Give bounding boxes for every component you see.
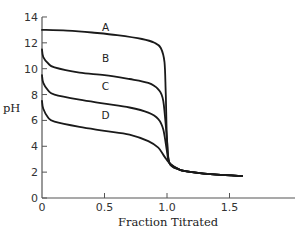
x-tick-label: 0.5 (96, 201, 114, 214)
curve-label-b: B (102, 52, 109, 64)
curve-label-a: A (102, 21, 110, 33)
x-axis: 00.51.01.5 (39, 193, 296, 214)
x-axis-title: Fraction Titrated (118, 215, 219, 229)
curves (42, 30, 242, 176)
curve-labels: ABCD (101, 21, 109, 121)
y-tick-label: 4 (31, 140, 38, 153)
y-tick-label: 8 (31, 89, 38, 102)
x-tick-label: 0 (39, 201, 46, 214)
curve-d (42, 101, 242, 176)
y-tick-label: 14 (24, 11, 38, 24)
curve-label-c: C (102, 80, 109, 92)
curve-b (42, 49, 242, 176)
curve-label-d: D (101, 109, 109, 121)
y-tick-label: 10 (24, 63, 38, 76)
y-tick-label: 6 (31, 114, 38, 127)
y-axis-title: pH (3, 101, 20, 115)
y-tick-label: 12 (24, 37, 38, 50)
y-tick-label: 0 (31, 192, 38, 205)
titration-chart: 02468101214 00.51.01.5 ABCD pH Fraction … (0, 0, 308, 230)
curve-a (42, 30, 242, 176)
x-tick-label: 1.0 (158, 201, 176, 214)
y-tick-label: 2 (31, 166, 38, 179)
x-tick-label: 1.5 (221, 201, 239, 214)
